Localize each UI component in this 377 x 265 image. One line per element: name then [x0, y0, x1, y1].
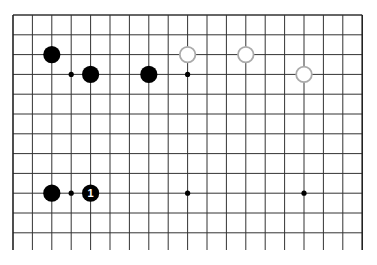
black-stone[interactable]: 1 [82, 185, 99, 202]
white-stone[interactable] [296, 67, 312, 83]
star-point [185, 191, 190, 196]
white-stone[interactable] [238, 47, 254, 63]
black-stone[interactable] [43, 185, 60, 202]
move-number-label: 1 [88, 187, 94, 199]
black-stone[interactable] [43, 46, 60, 63]
stones-layer[interactable]: 1 [43, 46, 312, 202]
star-point [69, 72, 74, 77]
go-board[interactable]: 1 [0, 0, 377, 265]
star-point [69, 191, 74, 196]
black-stone[interactable] [82, 66, 99, 83]
black-stone[interactable] [140, 66, 157, 83]
star-point [301, 191, 306, 196]
star-point [185, 72, 190, 77]
white-stone[interactable] [180, 47, 196, 63]
